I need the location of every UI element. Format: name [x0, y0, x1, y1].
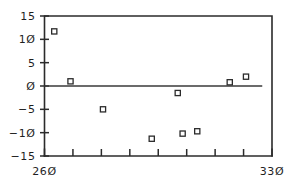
data-point-marker [175, 90, 180, 95]
y-tick-label: −5 [18, 103, 35, 116]
data-point-marker [195, 129, 200, 134]
x-axis-tick-labels: 26Ø33Ø [32, 165, 284, 178]
data-point-marker [243, 74, 248, 79]
data-point-marker [227, 80, 232, 85]
data-point-marker [52, 29, 57, 34]
y-tick-label: 5 [28, 57, 36, 70]
data-point-marker [149, 136, 154, 141]
x-tick-label: 26Ø [32, 165, 56, 178]
y-tick-label: 15 [20, 10, 35, 23]
y-tick-label: −1Ø [9, 127, 36, 140]
chart-canvas: 151Ø5Ø−5−1Ø−15 26Ø33Ø [0, 0, 293, 190]
x-tick-label: 33Ø [260, 165, 284, 178]
data-point-series [52, 29, 249, 142]
y-tick-label: −15 [10, 150, 35, 163]
data-point-marker [100, 107, 105, 112]
y-tick-label: Ø [26, 80, 35, 93]
y-axis-tick-labels: 151Ø5Ø−5−1Ø−15 [9, 10, 36, 163]
y-tick-label: 1Ø [19, 33, 36, 46]
x-axis-ticks [45, 149, 273, 157]
scatter-plot-figure: 151Ø5Ø−5−1Ø−15 26Ø33Ø [0, 0, 293, 190]
data-point-marker [180, 131, 185, 136]
data-point-marker [68, 79, 73, 84]
